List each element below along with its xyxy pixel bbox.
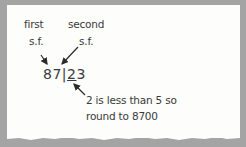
arrows: [0, 0, 246, 147]
arrow-second: [62, 47, 78, 64]
arrow-deciding: [74, 84, 85, 95]
arrow-first: [41, 55, 47, 64]
